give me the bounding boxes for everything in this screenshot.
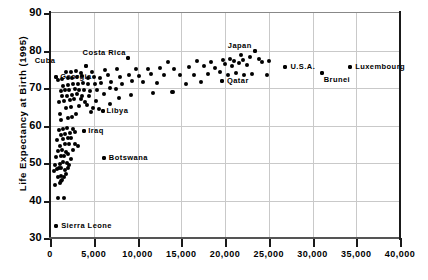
data-point: [232, 59, 236, 63]
gridline-vertical: [269, 13, 270, 238]
x-tick-mark: [269, 238, 271, 247]
x-tick-label: 40,000: [385, 249, 416, 259]
data-point: [57, 100, 61, 104]
data-point: [218, 70, 222, 74]
data-point: [59, 89, 63, 93]
x-axis-line: [49, 237, 401, 239]
data-point: [155, 81, 159, 85]
data-point: [94, 99, 98, 103]
data-point: [230, 64, 234, 68]
data-point-labeled: [253, 49, 257, 53]
point-label: Sierra Leone: [61, 221, 112, 230]
data-point: [120, 82, 124, 86]
data-point: [114, 87, 118, 91]
data-point: [162, 73, 166, 77]
data-point: [241, 58, 245, 62]
x-tick-label: 5,000: [81, 249, 106, 259]
data-point: [62, 99, 66, 103]
data-point: [127, 73, 131, 77]
data-point: [141, 80, 145, 84]
data-point: [115, 67, 119, 71]
data-point-labeled: [102, 156, 106, 160]
point-label: Iraq: [88, 126, 104, 135]
data-point: [85, 103, 89, 107]
data-point: [62, 196, 66, 200]
x-tick-mark: [313, 238, 315, 247]
data-point: [77, 88, 81, 92]
data-point: [73, 130, 77, 134]
data-point: [61, 84, 65, 88]
x-tick-mark: [94, 238, 96, 247]
point-label: Luxembourg: [355, 62, 405, 71]
data-point: [248, 55, 252, 59]
y-tick-label: 50: [20, 156, 42, 168]
gridline-vertical: [313, 13, 314, 238]
data-point: [118, 75, 122, 79]
gridline-vertical: [356, 13, 357, 238]
gridline-vertical: [181, 13, 182, 238]
data-point: [91, 106, 95, 110]
x-tick-mark: [225, 238, 227, 247]
scatter-chart: Life Expectancy at Birth (1995) 30405060…: [0, 0, 428, 280]
x-tick-label: 30,000: [297, 249, 328, 259]
y-tick-label: 60: [20, 119, 42, 131]
y-tick-label: 40: [20, 194, 42, 206]
data-point: [92, 75, 96, 79]
data-point: [257, 57, 261, 61]
data-point: [65, 126, 69, 130]
data-point: [239, 53, 243, 57]
data-point: [93, 82, 97, 86]
data-point: [267, 59, 271, 63]
data-point: [172, 67, 176, 71]
point-label: Costa Rica: [83, 48, 126, 57]
data-point-labeled: [220, 79, 224, 83]
data-point: [69, 105, 73, 109]
point-label: Cuba: [35, 56, 56, 65]
data-point: [99, 81, 103, 85]
data-point: [106, 73, 110, 77]
data-point: [178, 73, 182, 77]
data-point: [213, 66, 217, 70]
data-point: [184, 82, 188, 86]
data-point: [74, 112, 78, 116]
data-point: [250, 72, 254, 76]
data-point: [87, 94, 91, 98]
data-point: [65, 94, 69, 98]
data-point: [71, 148, 75, 152]
data-point: [192, 73, 196, 77]
data-point: [53, 183, 57, 187]
x-tick-label: 20,000: [210, 249, 241, 259]
data-point: [134, 67, 138, 71]
data-point: [195, 59, 199, 63]
point-label: Japan: [228, 41, 252, 50]
plot-right-border: [399, 11, 401, 240]
x-tick-mark: [181, 238, 183, 247]
data-point: [149, 72, 153, 76]
data-point: [53, 163, 57, 167]
data-point: [129, 93, 133, 97]
data-point-labeled: [126, 56, 130, 60]
data-point: [55, 138, 59, 142]
data-point: [81, 81, 85, 85]
x-tick-mark: [138, 238, 140, 247]
gridline-vertical: [138, 13, 139, 238]
data-point: [209, 60, 213, 64]
data-point: [70, 93, 74, 97]
x-tick-label: 25,000: [253, 249, 284, 259]
data-point: [58, 144, 62, 148]
x-tick-label: 0: [47, 249, 53, 259]
data-point: [171, 90, 175, 94]
data-point: [59, 133, 63, 137]
x-tick-label: 35,000: [341, 249, 372, 259]
data-point: [71, 127, 75, 131]
data-point: [76, 144, 80, 148]
point-label: Qatar: [227, 76, 249, 85]
gridline-vertical: [225, 13, 226, 238]
point-label: Georgia: [60, 72, 92, 81]
data-point: [72, 97, 76, 101]
y-tick-label: 30: [20, 231, 42, 243]
point-label: Libya: [107, 106, 129, 115]
x-tick-label: 10,000: [122, 249, 153, 259]
point-label: Botswana: [109, 153, 148, 162]
data-point: [80, 94, 84, 98]
